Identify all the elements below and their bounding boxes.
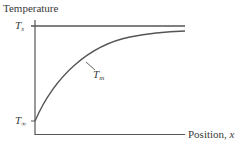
x-axis-label: Position, x (188, 128, 234, 140)
y-axis-label: Temperature (3, 2, 58, 14)
mean-temperature-label: Tm (93, 68, 104, 84)
mean-temperature-curve (35, 31, 185, 121)
ambient-temperature-label: T∞ (15, 114, 26, 130)
surface-temperature-label: Ts (15, 19, 24, 35)
